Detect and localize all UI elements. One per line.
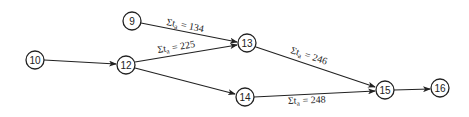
node-15: 15 [376, 81, 394, 99]
svg-text:13: 13 [241, 38, 253, 49]
edge-15-16 [394, 89, 430, 90]
svg-text:9: 9 [129, 16, 135, 27]
network-diagram: Σta= 134 Σta= 225 Σta= 246 Σta= 248 9 10… [0, 0, 469, 117]
node-10: 10 [26, 51, 44, 69]
node-14: 14 [236, 88, 254, 106]
edge-12-14 [135, 68, 235, 94]
svg-text:12: 12 [120, 60, 132, 71]
svg-text:14: 14 [239, 92, 251, 103]
svg-text:15: 15 [379, 85, 391, 96]
node-16: 16 [431, 79, 449, 97]
edge-10-12 [44, 60, 116, 64]
edge-label-9-13: Σta= 134 [165, 16, 205, 36]
edge-label-12-13: Σta= 225 [157, 38, 196, 57]
svg-text:10: 10 [29, 55, 41, 66]
svg-text:16: 16 [434, 83, 446, 94]
node-13: 13 [238, 34, 256, 52]
node-12: 12 [117, 56, 135, 74]
node-9: 9 [123, 12, 141, 30]
edge-label-14-15: Σta= 248 [288, 94, 326, 108]
